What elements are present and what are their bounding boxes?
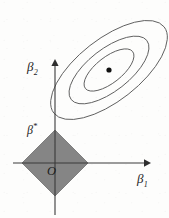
beta-2-symbol: β — [27, 59, 33, 74]
beta-2-arrowhead — [51, 59, 58, 66]
beta-1-arrowhead — [144, 159, 151, 167]
lasso-solution-label: β* — [27, 122, 38, 136]
beta-1-subscript: 1 — [144, 180, 148, 189]
beta-1-axis-label: β1 — [137, 172, 148, 189]
lasso-constraint-figure: β2 β1 O β* — [0, 0, 169, 218]
beta-2-axis-label: β2 — [27, 60, 38, 77]
ols-estimate-dot — [106, 67, 111, 72]
beta-1-symbol: β — [137, 171, 143, 186]
origin-label: O — [47, 165, 56, 178]
beta-star-superscript: * — [33, 121, 37, 131]
beta-2-subscript: 2 — [34, 68, 38, 77]
